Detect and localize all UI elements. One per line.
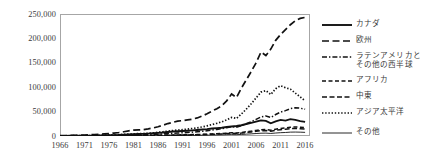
x-tick-label: 1971 — [76, 140, 93, 151]
y-tick-label: 50,000 — [0, 107, 56, 116]
x-tick-label: 1976 — [101, 140, 118, 151]
legend-line-swatch-icon — [322, 92, 352, 102]
legend-label: その他 — [356, 127, 380, 136]
y-tick-label: 250,000 — [0, 10, 56, 19]
x-axis: 1966197119761981198619911996200120062011… — [60, 140, 310, 154]
legend-line-swatch-icon — [322, 76, 352, 86]
y-axis: 050,000100,000150,000200,000250,000 — [0, 0, 56, 161]
x-tick-label: 2011 — [272, 140, 289, 151]
legend-item[interactable]: 欧州 — [322, 35, 440, 46]
plot-lines — [60, 14, 310, 136]
x-tick-label: 2001 — [223, 140, 240, 151]
legend-line-swatch-icon — [322, 36, 352, 46]
y-tick-label: 150,000 — [0, 58, 56, 67]
legend-label: ラテンアメリカと その他の西半球 — [356, 51, 421, 69]
plot-area — [60, 14, 310, 136]
legend-line-swatch-icon — [322, 52, 352, 62]
legend-item[interactable]: その他 — [322, 127, 440, 138]
legend-item[interactable]: カナダ — [322, 19, 440, 30]
y-tick-label: 100,000 — [0, 83, 56, 92]
x-tick-label: 2006 — [248, 140, 265, 151]
legend-label: アフリカ — [356, 75, 388, 84]
legend-item[interactable]: 中東 — [322, 91, 440, 102]
x-tick-label: 1966 — [52, 140, 69, 151]
legend: カナダ欧州ラテンアメリカと その他の西半球アフリカ中東アジア太平洋その他 — [322, 14, 440, 154]
legend-item[interactable]: アフリカ — [322, 75, 440, 86]
x-tick-label: 1981 — [125, 140, 142, 151]
legend-label: 欧州 — [356, 35, 372, 44]
legend-line-swatch-icon — [322, 128, 352, 138]
legend-item[interactable]: アジア太平洋 — [322, 107, 440, 118]
x-tick-label: 2016 — [297, 140, 314, 151]
x-tick-label: 1986 — [150, 140, 167, 151]
series-line — [60, 86, 305, 136]
legend-label: カナダ — [356, 19, 380, 28]
x-tick-label: 1996 — [199, 140, 216, 151]
y-tick-label: 0 — [0, 132, 56, 141]
y-tick-label: 200,000 — [0, 34, 56, 43]
series-line — [60, 17, 305, 135]
legend-label: 中東 — [356, 91, 372, 100]
line-chart-figure: 050,000100,000150,000200,000250,000 1966… — [0, 0, 440, 161]
legend-label: アジア太平洋 — [356, 107, 405, 116]
legend-item[interactable]: ラテンアメリカと その他の西半球 — [322, 51, 440, 69]
legend-line-swatch-icon — [322, 108, 352, 118]
legend-line-swatch-icon — [322, 20, 352, 30]
x-tick-label: 1991 — [174, 140, 191, 151]
